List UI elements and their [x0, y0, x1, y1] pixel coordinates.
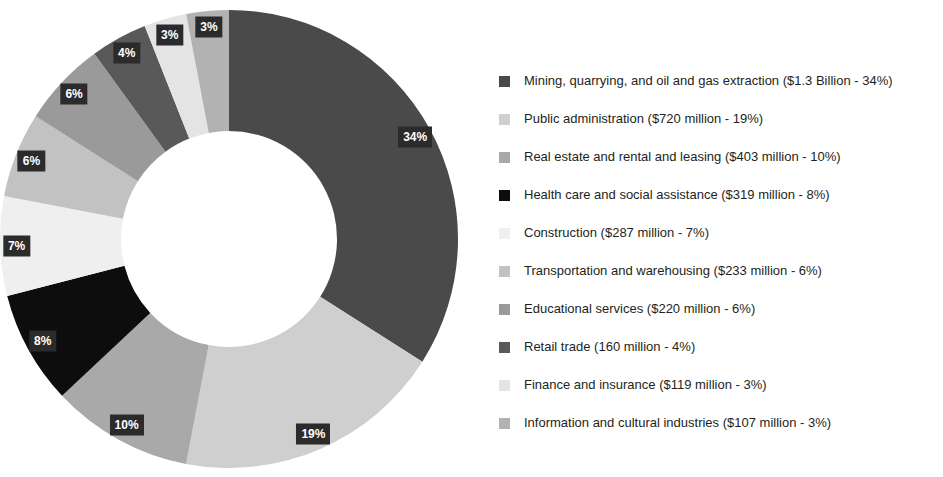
- legend-color-swatch-icon: [499, 76, 510, 87]
- donut-chart-svg: [0, 0, 470, 477]
- legend-item[interactable]: Health care and social assistance ($319 …: [499, 176, 939, 214]
- slice-percentage-label: 4%: [113, 42, 140, 63]
- legend-item-label: Transportation and warehousing ($233 mil…: [524, 264, 822, 278]
- legend-color-swatch-icon: [499, 114, 510, 125]
- legend-item[interactable]: Information and cultural industries ($10…: [499, 404, 939, 442]
- slice-percentage-label: 3%: [156, 24, 183, 45]
- chart-page: 34%19%10%8%7%6%6%4%3%3% Mining, quarryin…: [0, 0, 943, 477]
- slice-percentage-label: 7%: [3, 235, 30, 256]
- legend-item-label: Mining, quarrying, and oil and gas extra…: [524, 74, 893, 88]
- legend-color-swatch-icon: [499, 380, 510, 391]
- legend-color-swatch-icon: [499, 304, 510, 315]
- donut-chart: 34%19%10%8%7%6%6%4%3%3%: [0, 0, 470, 477]
- slice-percentage-label: 6%: [60, 83, 87, 104]
- legend-item-label: Construction ($287 million - 7%): [524, 226, 709, 240]
- legend-item[interactable]: Transportation and warehousing ($233 mil…: [499, 252, 939, 290]
- legend-color-swatch-icon: [499, 190, 510, 201]
- legend-color-swatch-icon: [499, 342, 510, 353]
- slice-percentage-label: 6%: [18, 150, 45, 171]
- legend-color-swatch-icon: [499, 228, 510, 239]
- chart-legend: Mining, quarrying, and oil and gas extra…: [499, 62, 939, 442]
- legend-item[interactable]: Real estate and rental and leasing ($403…: [499, 138, 939, 176]
- legend-item-label: Educational services ($220 million - 6%): [524, 302, 755, 316]
- legend-color-swatch-icon: [499, 152, 510, 163]
- legend-item[interactable]: Public administration ($720 million - 19…: [499, 100, 939, 138]
- legend-item[interactable]: Mining, quarrying, and oil and gas extra…: [499, 62, 939, 100]
- slice-percentage-label: 3%: [195, 17, 222, 38]
- legend-item-label: Retail trade (160 million - 4%): [524, 340, 695, 354]
- legend-item-label: Health care and social assistance ($319 …: [524, 188, 830, 202]
- legend-color-swatch-icon: [499, 418, 510, 429]
- legend-item[interactable]: Educational services ($220 million - 6%): [499, 290, 939, 328]
- donut-slice[interactable]: [229, 10, 458, 362]
- legend-item-label: Information and cultural industries ($10…: [524, 416, 831, 430]
- legend-item-label: Public administration ($720 million - 19…: [524, 112, 763, 126]
- slice-percentage-label: 34%: [398, 126, 432, 147]
- slice-percentage-label: 10%: [110, 415, 144, 436]
- legend-item-label: Finance and insurance ($119 million - 3%…: [524, 378, 767, 392]
- legend-color-swatch-icon: [499, 266, 510, 277]
- legend-item[interactable]: Finance and insurance ($119 million - 3%…: [499, 366, 939, 404]
- slice-percentage-label: 8%: [29, 331, 56, 352]
- legend-item[interactable]: Construction ($287 million - 7%): [499, 214, 939, 252]
- slice-percentage-label: 19%: [296, 424, 330, 445]
- legend-item-label: Real estate and rental and leasing ($403…: [524, 150, 841, 164]
- legend-item[interactable]: Retail trade (160 million - 4%): [499, 328, 939, 366]
